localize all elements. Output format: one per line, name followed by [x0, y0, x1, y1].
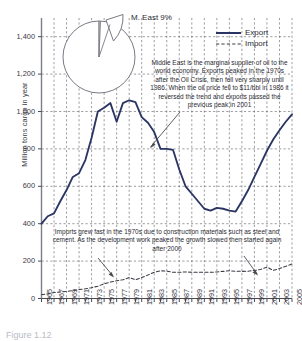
inset-pie-chart — [63, 15, 135, 94]
export-annotation-text: Middle East is the marginal supplier of … — [148, 59, 291, 109]
x-tick-label: 1977 — [120, 289, 129, 305]
x-tick-label: 1981 — [145, 289, 154, 305]
x-tick-label: 1971 — [82, 289, 91, 305]
x-tick-label: 1967 — [57, 289, 66, 305]
y-tick-label: 600 — [0, 181, 35, 190]
x-tick-label: 1975 — [107, 289, 116, 305]
x-tick-label: 2005 — [295, 289, 302, 305]
x-tick-label: 1983 — [157, 289, 166, 305]
y-axis-label: Million tons cargo in year — [20, 65, 29, 185]
chart-figure: Million tons cargo in year 0200400600800… — [0, 0, 302, 341]
x-tick-label: 2003 — [282, 289, 291, 305]
x-tick-label: 1965 — [45, 289, 54, 305]
x-tick-label: 1985 — [170, 289, 179, 305]
x-tick-label: 1991 — [207, 289, 216, 305]
x-tick-label: 1987 — [182, 289, 191, 305]
x-tick-label: 1999 — [257, 289, 266, 305]
pie-slice-label-middle-east: M. East 9% — [131, 13, 172, 22]
x-tick-label: 1995 — [232, 289, 241, 305]
x-tick-label: 1997 — [245, 289, 254, 305]
y-tick-label: 0 — [0, 294, 35, 303]
y-tick-label: 1,200 — [0, 69, 35, 78]
y-tick-label: 1,000 — [0, 107, 35, 116]
legend-label-export: Export — [245, 28, 268, 37]
y-tick-label: 1,400 — [0, 32, 35, 41]
import-annotation-arrow-left — [98, 258, 114, 278]
x-tick-marks — [42, 299, 293, 303]
legend-marks — [216, 33, 241, 44]
x-tick-label: 1989 — [195, 289, 204, 305]
y-tick-label: 400 — [0, 219, 35, 228]
figure-caption: Figure 1.12 — [6, 330, 52, 340]
import-annotation-text: Imports grew fast in the 1970s due to co… — [47, 228, 287, 253]
y-tick-label: 800 — [0, 144, 35, 153]
x-tick-label: 2001 — [270, 289, 279, 305]
import-annotation-arrow-right — [244, 256, 258, 276]
x-tick-label: 1993 — [220, 289, 229, 305]
x-tick-label: 1979 — [132, 289, 141, 305]
legend-label-import: Import — [245, 39, 268, 48]
x-tick-label: 1973 — [95, 289, 104, 305]
export-line — [42, 100, 293, 223]
x-tick-label: 1969 — [70, 289, 79, 305]
y-tick-label: 200 — [0, 256, 35, 265]
